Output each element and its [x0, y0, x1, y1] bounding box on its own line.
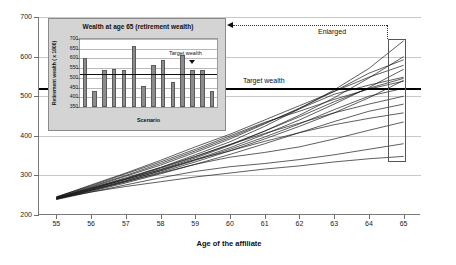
x-tick: [56, 215, 57, 219]
x-tick-label: 60: [218, 220, 242, 228]
inset-x-axis-title: Scenario: [79, 117, 218, 123]
inset-gridline: [80, 78, 217, 79]
x-tick-label: 61: [253, 220, 277, 228]
x-tick: [195, 215, 196, 219]
callout-dotted-vertical: [387, 25, 388, 39]
inset-title: Wealth at age 65 (retirement wealth): [49, 23, 227, 30]
x-tick-label: 59: [183, 220, 207, 228]
inset-bar: [122, 70, 127, 107]
x-tick-label: 62: [287, 220, 311, 228]
x-tick-label: 65: [392, 220, 416, 228]
inset-y-tick-label: 600: [54, 54, 78, 60]
x-tick-label: 55: [44, 220, 68, 228]
inset-bar: [171, 82, 176, 107]
scenario-curve: [56, 156, 403, 198]
inset-gridline: [80, 97, 217, 98]
x-tick: [369, 215, 370, 219]
x-tick: [299, 215, 300, 219]
inset-target-arrow-icon: [189, 60, 195, 64]
x-tick: [91, 215, 92, 219]
x-tick: [265, 215, 266, 219]
inset-bar: [190, 70, 195, 107]
x-tick: [126, 215, 127, 219]
chart-root: 5556575859606162636465 20030040050060070…: [0, 0, 456, 265]
inset-y-tick-label: 550: [54, 64, 78, 70]
x-tick: [334, 215, 335, 219]
inset-bar: [180, 55, 185, 107]
inset-bar: [141, 86, 146, 107]
inset-bar: [132, 46, 137, 107]
y-tick-label: 500: [0, 92, 32, 100]
x-tick-label: 58: [149, 220, 173, 228]
x-tick: [230, 215, 231, 219]
inset-y-tick-label: 650: [54, 45, 78, 51]
y-tick-label: 300: [0, 171, 32, 179]
inset-chart-panel: Wealth at age 65 (retirement wealth) Ret…: [48, 18, 226, 131]
y-tick: [34, 215, 39, 216]
inset-gridline: [80, 39, 217, 40]
x-tick-label: 63: [322, 220, 346, 228]
inset-bar: [161, 60, 166, 107]
inset-bar: [92, 91, 97, 108]
inset-y-tick-label: 400: [54, 93, 78, 99]
y-tick-label: 200: [0, 211, 32, 219]
inset-gridline: [80, 58, 217, 59]
inset-bar: [210, 91, 215, 107]
inset-gridline: [80, 88, 217, 89]
inset-y-tick-label: 700: [54, 35, 78, 41]
inset-bar: [200, 70, 205, 107]
y-tick-label: 400: [0, 132, 32, 140]
x-tick: [161, 215, 162, 219]
inset-y-tick-label: 500: [54, 74, 78, 80]
y-tick-label: 700: [0, 13, 32, 21]
target-wealth-label: Target wealth: [243, 77, 285, 84]
inset-bar: [83, 58, 88, 107]
callout-dotted-line: [233, 25, 387, 26]
callout-arrow-head-icon: [227, 22, 233, 28]
enlarged-label: Enlarged: [318, 28, 346, 35]
inset-y-tick-label: 450: [54, 84, 78, 90]
x-tick-label: 56: [79, 220, 103, 228]
inset-bar: [151, 65, 156, 107]
enlarged-source-rectangle: [388, 39, 406, 162]
scenario-curve: [56, 144, 403, 200]
inset-plot-area: [79, 38, 218, 108]
inset-y-tick-label: 350: [54, 103, 78, 109]
x-tick-label: 64: [357, 220, 381, 228]
x-axis-title: Age of the affiliate: [38, 239, 420, 248]
inset-target-wealth-line: [80, 74, 217, 75]
x-tick-label: 57: [114, 220, 138, 228]
inset-target-wealth-label: Target wealth: [169, 50, 202, 56]
y-tick-label: 600: [0, 53, 32, 61]
x-tick: [404, 215, 405, 219]
inset-gridline: [80, 68, 217, 69]
inset-bar: [102, 70, 107, 107]
